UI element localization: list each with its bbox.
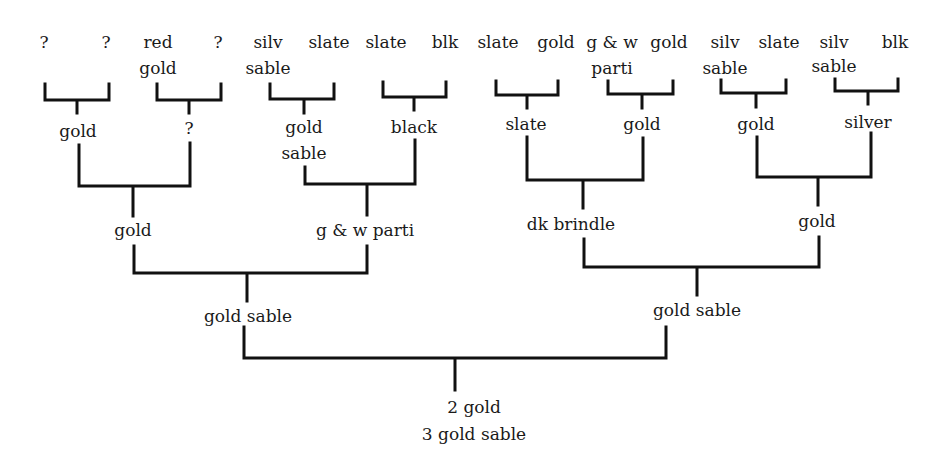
bracket-l4-8 xyxy=(835,79,898,104)
grandparent-label: gold xyxy=(59,121,96,141)
ancestor-label-line2: parti xyxy=(591,58,632,78)
ancestor-label: blk xyxy=(882,32,909,52)
ancestor-label: ? xyxy=(101,32,110,52)
parent-of-parent-label: gold xyxy=(798,211,835,231)
ancestor-label: silv xyxy=(253,32,282,52)
ancestor-label-line2: sable xyxy=(811,56,856,76)
ancestor-label-line2: sable xyxy=(702,58,747,78)
bracket-l3-3 xyxy=(527,137,643,208)
bracket-l4-2 xyxy=(157,84,221,113)
bracket-l4-4 xyxy=(383,82,446,110)
ancestor-label: gold xyxy=(650,32,687,52)
bracket-l4-6 xyxy=(608,81,673,108)
grandparent-label: gold xyxy=(285,117,322,137)
parent-of-parent-label: dk brindle xyxy=(527,214,615,234)
grandparent-label: gold xyxy=(623,114,660,134)
bracket-l4-1 xyxy=(45,84,109,113)
bracket-l3-4 xyxy=(757,133,871,205)
ancestor-label: blk xyxy=(432,32,459,52)
ancestor-label: ? xyxy=(39,32,48,52)
bracket-l4-3 xyxy=(270,84,334,113)
ancestor-label: slate xyxy=(308,32,349,52)
ancestor-label: ? xyxy=(213,32,222,52)
bracket-l2-1 xyxy=(134,246,367,301)
grandparent-label: slate xyxy=(505,114,546,134)
bracket-l1 xyxy=(244,327,666,390)
parent-of-parent-label: gold xyxy=(114,220,151,240)
parent-of-parent-label: g & w parti xyxy=(316,220,414,240)
pedigree-diagram: ? ? red gold ? silv sable slate slate bl… xyxy=(0,0,943,472)
grandparent-label-line2: sable xyxy=(281,143,326,163)
grandparent-label: ? xyxy=(184,118,193,138)
ancestor-label: red xyxy=(143,32,172,52)
parent-label-sire: gold sable xyxy=(204,306,292,326)
grandparent-label: gold xyxy=(737,114,774,134)
parent-label-dam: gold sable xyxy=(653,300,741,320)
ancestor-label: slate xyxy=(758,32,799,52)
grandparent-label: silver xyxy=(844,112,891,132)
bracket-l4-7 xyxy=(721,80,786,107)
grandparent-label: black xyxy=(391,117,437,137)
offspring-label-line1: 2 gold xyxy=(447,397,501,417)
ancestor-label-line2: sable xyxy=(245,58,290,78)
offspring-label-line2: 3 gold sable xyxy=(422,424,526,444)
bracket-l2-2 xyxy=(584,237,819,295)
ancestor-label: silv xyxy=(819,32,848,52)
ancestor-label: silv xyxy=(710,32,739,52)
bracket-l4-5 xyxy=(496,81,558,108)
ancestor-label-line2: gold xyxy=(139,58,176,78)
ancestor-label: slate xyxy=(365,32,406,52)
ancestor-label: slate xyxy=(477,32,518,52)
bracket-l3-1 xyxy=(79,143,190,216)
ancestor-label: gold xyxy=(537,32,574,52)
ancestor-label: g & w xyxy=(586,32,637,52)
